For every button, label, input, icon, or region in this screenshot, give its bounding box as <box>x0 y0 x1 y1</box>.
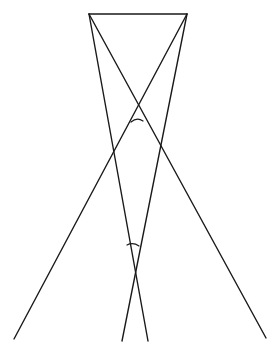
line-from-A-to-lower-center <box>89 14 148 341</box>
diagram-svg <box>0 0 280 351</box>
geometry-diagram <box>0 0 280 351</box>
angle-marks-group <box>127 119 143 246</box>
line-from-B-to-lower-left <box>14 14 187 339</box>
segments-group <box>14 14 266 341</box>
line-from-B-to-lower-center <box>122 14 187 341</box>
lower-crossing-angle-arc <box>127 244 139 246</box>
upper-crossing-angle-arc <box>131 119 143 122</box>
